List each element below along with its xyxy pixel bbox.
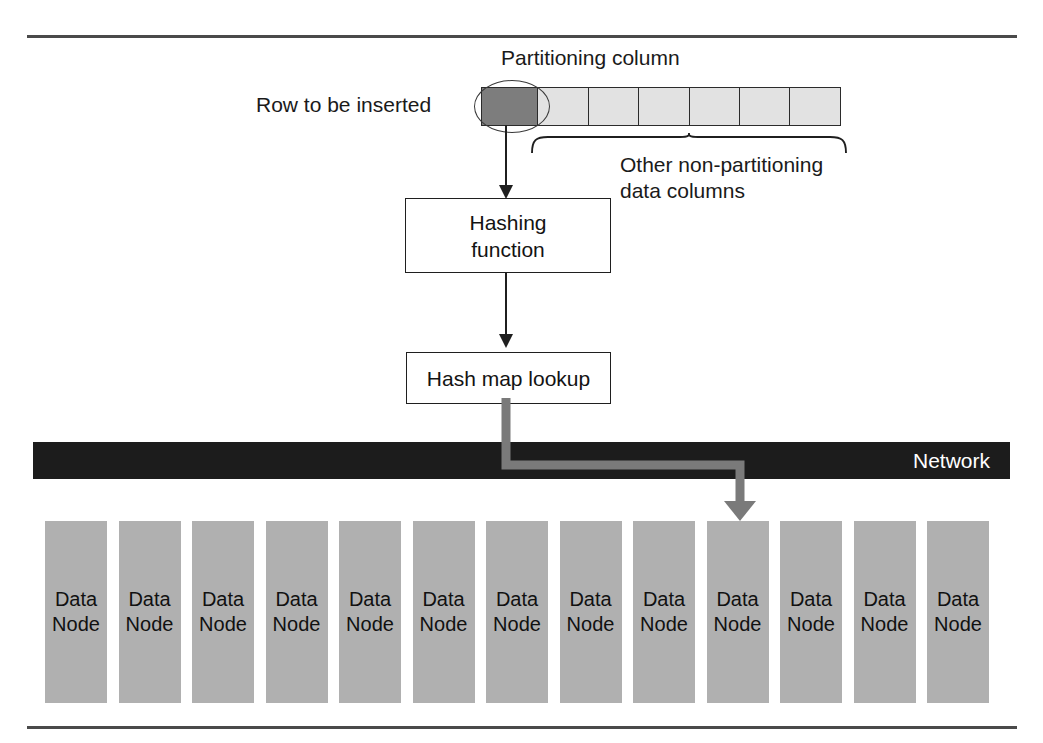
data-node-label-line2: Node xyxy=(52,612,100,637)
data-node-label-line1: Data xyxy=(496,587,538,612)
data-node-label-line1: Data xyxy=(349,587,391,612)
data-node[interactable]: Data Node xyxy=(192,521,254,703)
data-node-label-line2: Node xyxy=(934,612,982,637)
partitioning-column-label: Partitioning column xyxy=(501,45,680,71)
data-node-label-line1: Data xyxy=(55,587,97,612)
data-node[interactable]: Data Node xyxy=(119,521,181,703)
data-column-cell xyxy=(638,87,690,126)
non-partitioning-columns-brace xyxy=(530,132,848,154)
data-node-label-line1: Data xyxy=(202,587,244,612)
other-columns-label-line2: data columns xyxy=(620,178,745,204)
data-node[interactable]: Data Node xyxy=(486,521,548,703)
data-node[interactable]: Data Node xyxy=(927,521,989,703)
data-node[interactable]: Data Node xyxy=(854,521,916,703)
data-node-label-line1: Data xyxy=(790,587,832,612)
connector-hashing-to-lookup xyxy=(505,273,507,338)
data-node-label-line2: Node xyxy=(787,612,835,637)
network-label: Network xyxy=(913,448,990,473)
data-node-label-line2: Node xyxy=(714,612,762,637)
data-node[interactable]: Data Node xyxy=(45,521,107,703)
connector-cell-to-hashing xyxy=(505,125,507,190)
row-to-be-inserted-label: Row to be inserted xyxy=(256,92,431,118)
data-column-cell xyxy=(689,87,741,126)
bottom-rule-divider xyxy=(27,726,1017,729)
data-node-label-line2: Node xyxy=(861,612,909,637)
data-node-label-line1: Data xyxy=(937,587,979,612)
data-node-label-line2: Node xyxy=(567,612,615,637)
data-node[interactable]: Data Node xyxy=(339,521,401,703)
data-column-cell xyxy=(588,87,640,126)
arrowhead-to-hashing-icon xyxy=(499,185,513,199)
hash-map-lookup-box: Hash map lookup xyxy=(406,352,611,404)
data-node-label-line1: Data xyxy=(863,587,905,612)
data-node-label-line1: Data xyxy=(569,587,611,612)
data-node[interactable]: Data Node xyxy=(780,521,842,703)
hash-map-lookup-label: Hash map lookup xyxy=(427,365,590,392)
hashing-function-label-line1: Hashing xyxy=(469,209,546,236)
network-bar: Network xyxy=(33,442,1010,479)
data-node-label-line2: Node xyxy=(126,612,174,637)
top-rule-divider xyxy=(27,35,1017,38)
data-node[interactable]: Data Node xyxy=(413,521,475,703)
data-column-cell xyxy=(739,87,791,126)
data-node-label-line2: Node xyxy=(346,612,394,637)
data-node[interactable]: Data Node xyxy=(266,521,328,703)
data-node-label-line1: Data xyxy=(275,587,317,612)
data-node-label-line1: Data xyxy=(643,587,685,612)
data-node-label-line1: Data xyxy=(128,587,170,612)
arrowhead-to-lookup-icon xyxy=(499,334,513,348)
data-node[interactable]: Data Node xyxy=(560,521,622,703)
data-node-label-line2: Node xyxy=(273,612,321,637)
data-node-target[interactable]: Data Node xyxy=(707,521,769,703)
partition-cell-highlight-ellipse xyxy=(474,80,550,133)
data-node-label-line2: Node xyxy=(640,612,688,637)
data-node-label-line1: Data xyxy=(716,587,758,612)
hashing-function-box: Hashing function xyxy=(405,198,611,273)
data-node-label-line2: Node xyxy=(199,612,247,637)
data-node[interactable]: Data Node xyxy=(633,521,695,703)
data-node-label-line2: Node xyxy=(420,612,468,637)
diagram-canvas: Partitioning column Row to be inserted O… xyxy=(0,0,1043,743)
other-columns-label-line1: Other non-partitioning xyxy=(620,152,823,178)
data-node-label-line1: Data xyxy=(422,587,464,612)
brace-icon xyxy=(530,132,848,154)
data-node-label-line2: Node xyxy=(493,612,541,637)
data-node-row: Data Node Data Node Data Node Data Node … xyxy=(45,521,989,703)
hashing-function-label-line2: function xyxy=(469,236,546,263)
data-column-cell xyxy=(789,87,841,126)
